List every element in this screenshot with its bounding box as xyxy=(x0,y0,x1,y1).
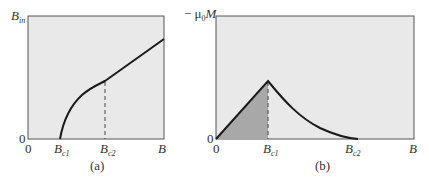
panel-b: − μ0M 0 0 Bc1 Bc2 B (b) xyxy=(184,6,417,173)
x-tick-bc1-a: Bc1 xyxy=(54,141,70,158)
x-tick-bc2-a: Bc2 xyxy=(100,141,116,158)
x-tick-bc2-b: Bc2 xyxy=(345,141,361,158)
x-zero-label-b: 0 xyxy=(213,141,220,156)
x-tick-bc1-b: Bc1 xyxy=(263,141,279,158)
x-axis-label-b: B xyxy=(409,141,417,156)
caption-b: (b) xyxy=(315,158,330,173)
x-zero-label-a: 0 xyxy=(25,141,32,156)
caption-a: (a) xyxy=(90,158,104,173)
panel-a: Bin 0 0 Bc1 Bc2 B (a) xyxy=(11,8,166,173)
x-axis-label-a: B xyxy=(158,141,166,156)
plot-area-a xyxy=(28,16,164,139)
figure: Bin 0 0 Bc1 Bc2 B (a) − μ0M 0 0 Bc1 Bc2 … xyxy=(0,0,429,180)
y-axis-label-a: Bin xyxy=(11,8,25,25)
y-axis-label-b: − μ0M xyxy=(184,6,218,23)
